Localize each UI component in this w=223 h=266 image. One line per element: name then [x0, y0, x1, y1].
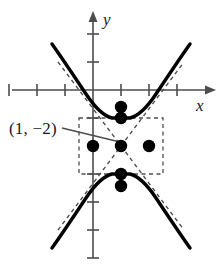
point-vertex-upper [115, 112, 127, 124]
point-focus-lower [115, 180, 127, 192]
x-axis-arrowhead [205, 86, 216, 95]
axes-group [12, 22, 205, 258]
y-axis-label: y [103, 10, 111, 30]
point-vertex-lower [115, 168, 127, 180]
y-axis-arrowhead [89, 11, 98, 22]
point-center [115, 140, 127, 152]
point-co-vertex-right [143, 140, 155, 152]
point-coordinate-label: (1, −2) [9, 119, 57, 139]
x-axis-label: x [196, 96, 204, 116]
annotation-leader-line [62, 128, 120, 142]
point-co-vertex-left [87, 140, 99, 152]
hyperbola-figure: (1, −2) x y [0, 0, 223, 266]
point-focus-upper [115, 101, 127, 113]
